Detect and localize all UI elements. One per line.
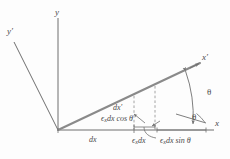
leader-eps-dx — [144, 127, 156, 138]
leader-arrow-eps-dx — [152, 121, 160, 126]
x-prime-axis — [58, 63, 200, 130]
leader-eps-dx-cos — [134, 114, 145, 123]
x-prime-arrowhead — [190, 64, 199, 69]
strain-transformation-figure: y y′ x x′ dx′ dx θ θ ϵxdx cos θ ϵxdx ϵxd… — [0, 0, 230, 159]
y-prime-axis — [14, 42, 58, 130]
theta-arc-outer — [186, 71, 194, 124]
figure-canvas — [0, 0, 230, 159]
